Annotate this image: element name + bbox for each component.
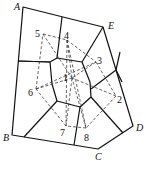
vertex-labels: A E D C B [3, 1, 144, 162]
label-5: 5 [35, 28, 40, 39]
label-7: 7 [60, 127, 65, 138]
label-C: C [95, 151, 102, 162]
voronoi-diagram: A E D C B 1 2 3 4 5 6 7 8 [0, 0, 146, 169]
label-3: 3 [97, 55, 102, 66]
label-4: 4 [64, 30, 69, 41]
label-1: 1 [63, 72, 68, 83]
label-2: 2 [117, 94, 122, 105]
site-labels: 1 2 3 4 5 6 7 8 [28, 28, 122, 143]
label-D: D [135, 122, 144, 133]
delaunay-edges [36, 34, 116, 128]
label-8: 8 [84, 132, 89, 143]
label-E: E [107, 20, 114, 31]
label-6: 6 [28, 87, 33, 98]
label-A: A [13, 1, 21, 12]
label-B: B [3, 132, 9, 143]
